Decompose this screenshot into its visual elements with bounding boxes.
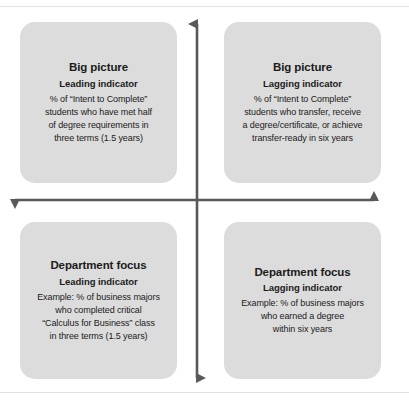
quadrant-body: Example: % of business majors who earned… (241, 297, 364, 336)
quadrant-title: Department focus (50, 258, 146, 272)
indicator-matrix-figure: Big picture Leading indicator % of “Inte… (0, 0, 409, 401)
quadrant-top-left: Big picture Leading indicator % of “Inte… (20, 22, 177, 183)
quadrant-body: % of “Intent to Complete” students who h… (45, 93, 152, 145)
quadrant-top-right: Big picture Lagging indicator % of “Inte… (224, 22, 381, 183)
figure-top-rule (0, 6, 409, 7)
quadrant-subtitle: Leading indicator (59, 78, 137, 90)
figure-bottom-rule (0, 392, 409, 393)
quadrant-title: Department focus (254, 265, 350, 279)
quadrant-title: Big picture (273, 60, 332, 74)
quadrant-title: Big picture (69, 60, 128, 74)
quadrant-bottom-right: Department focus Lagging indicator Examp… (224, 222, 381, 379)
quadrant-subtitle: Lagging indicator (263, 282, 342, 294)
quadrant-bottom-left: Department focus Leading indicator Examp… (20, 222, 177, 379)
quadrant-subtitle: Leading indicator (59, 276, 137, 288)
quadrant-subtitle: Lagging indicator (263, 78, 342, 90)
quadrant-body: % of “Intent to Complete” students who t… (243, 93, 363, 145)
quadrant-body: Example: % of business majors who comple… (37, 291, 160, 343)
